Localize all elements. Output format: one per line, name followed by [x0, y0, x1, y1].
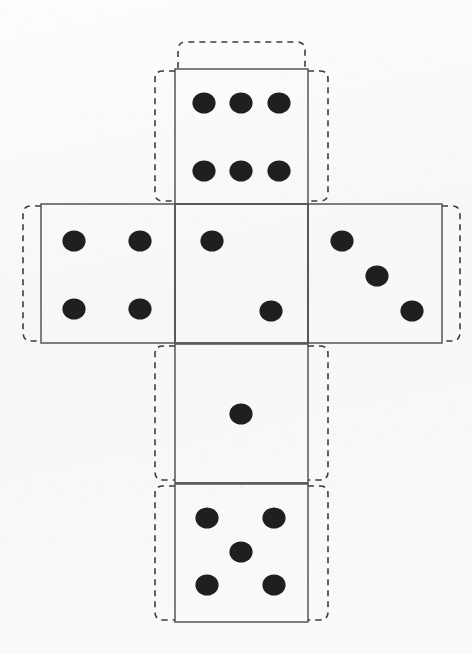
back-face-pips: [229, 403, 252, 424]
pip: [128, 230, 151, 251]
glue-tab-bottom-left: [155, 486, 175, 620]
glue-tab-bottom-right: [308, 486, 328, 620]
top-face-pips: [192, 92, 290, 181]
glue-tabs-group: [23, 42, 460, 620]
glue-tab-right: [442, 206, 460, 341]
pip: [192, 92, 215, 113]
dice-faces-group: [41, 69, 442, 622]
fold-lines-group: [175, 204, 308, 483]
pip: [262, 507, 285, 528]
pip: [195, 507, 218, 528]
dice-net-canvas: [0, 0, 472, 654]
pip: [192, 160, 215, 181]
left-face-pips: [62, 230, 151, 319]
glue-tab-top: [178, 42, 305, 68]
pip: [267, 92, 290, 113]
pip: [259, 300, 282, 321]
pip: [262, 574, 285, 595]
right-face-pips: [330, 230, 423, 321]
glue-tab-left: [23, 206, 41, 341]
pip: [229, 160, 252, 181]
front-face-pips: [200, 230, 282, 321]
glue-tab-top-right: [308, 71, 328, 201]
pip: [330, 230, 353, 251]
glue-tab-top-left: [155, 71, 175, 201]
pip: [200, 230, 223, 251]
glue-tab-back-left: [155, 346, 175, 480]
pip: [62, 230, 85, 251]
glue-tab-back-right: [308, 346, 328, 480]
pip: [195, 574, 218, 595]
dice-net-drawing: [0, 0, 472, 654]
pip: [128, 298, 151, 319]
left-face-outline: [41, 204, 175, 343]
pip: [267, 160, 290, 181]
pip: [365, 265, 388, 286]
pip: [229, 92, 252, 113]
pip: [229, 541, 252, 562]
bottom-face-pips: [195, 507, 285, 595]
pip: [62, 298, 85, 319]
pip: [229, 403, 252, 424]
top-face-outline: [175, 69, 308, 204]
pip: [400, 300, 423, 321]
front-face-outline: [175, 204, 308, 343]
